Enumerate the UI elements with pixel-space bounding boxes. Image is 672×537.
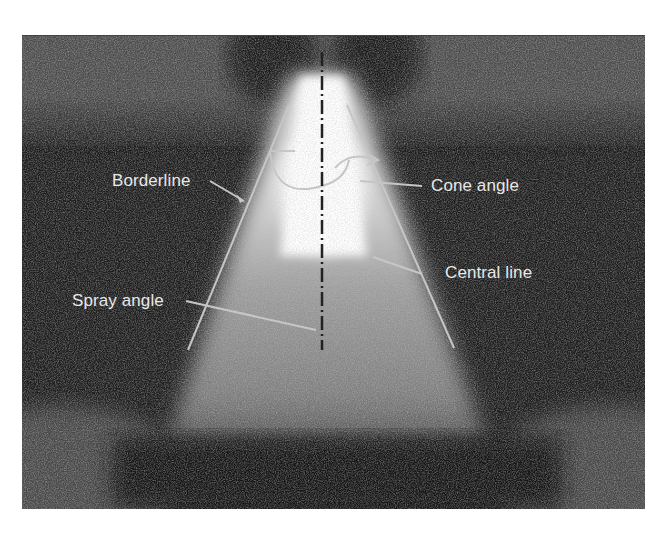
- borderline-arrowhead: [236, 194, 244, 203]
- cone-angle-leader: [360, 181, 422, 186]
- borderline-label: Borderline: [112, 171, 191, 191]
- cone-angle-label: Cone angle: [431, 176, 519, 196]
- spray-angle-label: Spray angle: [72, 291, 164, 311]
- cone-angle-arc: [270, 151, 349, 189]
- spray-figure: Borderline Cone angle Central line Spray…: [0, 0, 672, 537]
- central-line-label: Central line: [445, 263, 532, 283]
- cone-angle-arrow: [335, 156, 375, 168]
- spray-angle-leader: [186, 301, 316, 330]
- annotation-overlay: [0, 0, 672, 537]
- right-borderline: [347, 105, 454, 348]
